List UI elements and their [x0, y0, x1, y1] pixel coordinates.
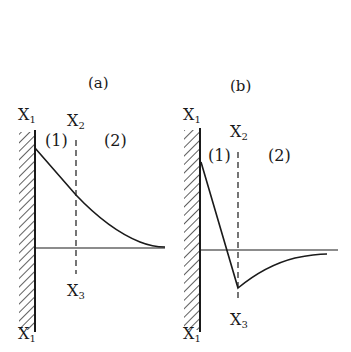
- profile-curve-b: [201, 162, 327, 288]
- panel-a-x2-label: X2: [67, 113, 85, 134]
- panel-b-x3-label: X3: [230, 312, 248, 333]
- panel-a-wall-top-label: X1: [18, 107, 36, 128]
- panel-a-x3-label: X3: [67, 283, 85, 304]
- panel-b-x2-label: X2: [230, 124, 248, 145]
- profile-curve-a: [35, 148, 165, 247]
- panel-a: [19, 130, 165, 332]
- panel-b-region-1-label: (1): [208, 148, 231, 164]
- panel-b-title: (b): [230, 78, 251, 94]
- wall-hatching-a: [19, 132, 35, 330]
- panel-b-region-2-label: (2): [268, 148, 291, 164]
- panel-a-title: (a): [88, 75, 109, 91]
- panel-a-region-2-label: (2): [104, 133, 127, 149]
- panel-b-wall-top-label: X1: [183, 107, 201, 128]
- panel-a-region-1-label: (1): [45, 133, 68, 149]
- panel-a-wall-bottom-label: X1: [18, 326, 36, 347]
- panel-b-wall-bottom-label: X1: [183, 326, 201, 347]
- diagram-canvas: [0, 0, 351, 352]
- wall-hatching-b: [184, 130, 200, 330]
